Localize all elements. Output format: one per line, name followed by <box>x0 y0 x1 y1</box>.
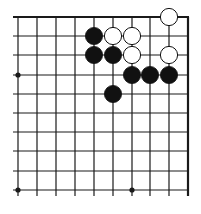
star-point <box>15 72 20 77</box>
go-board-diagram <box>0 0 201 214</box>
black-stone <box>160 66 177 83</box>
white-stone <box>104 27 121 44</box>
white-stone <box>160 46 177 63</box>
star-point <box>129 187 134 192</box>
black-stone <box>85 27 102 44</box>
black-stone <box>104 85 121 102</box>
black-stone <box>123 66 140 83</box>
white-stone <box>123 27 140 44</box>
black-stone <box>104 46 121 63</box>
black-stone <box>85 46 102 63</box>
board-grid <box>13 17 189 196</box>
white-stone <box>123 46 140 63</box>
star-point <box>15 187 20 192</box>
black-stone <box>141 66 158 83</box>
white-stone <box>160 8 177 25</box>
